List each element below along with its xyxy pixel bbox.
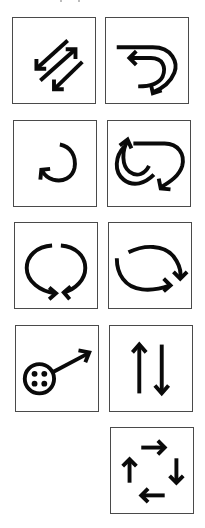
cropped-caption-fragment xyxy=(58,0,88,4)
button-with-pointer-arrow-icon xyxy=(16,326,98,411)
up-down-arrows-icon xyxy=(110,326,192,411)
tile-diagonal-arrows xyxy=(12,17,96,104)
tile-button-pointer-arrow xyxy=(15,325,99,412)
triple-loop-arrows-icon xyxy=(108,121,190,206)
clockwise-circular-arrow-icon xyxy=(14,121,96,206)
double-u-turn-arrows-icon xyxy=(106,18,188,103)
cycle-two-arc-arrows-icon xyxy=(109,223,191,308)
tile-two-arc-cycle xyxy=(108,222,192,309)
tile-nested-loop-arrows xyxy=(107,120,191,207)
tile-circular-arrow xyxy=(13,120,97,207)
tile-up-down-arrows xyxy=(109,325,193,412)
tile-converging-loop-arrows xyxy=(14,222,98,309)
tile-u-turn-arrows xyxy=(105,17,189,104)
three-parallel-diagonal-arrows-icon xyxy=(13,18,95,103)
converging-loop-arrows-icon xyxy=(15,223,97,308)
tile-four-arrow-cycle xyxy=(110,427,194,514)
four-arrow-cycle-icon xyxy=(111,428,193,513)
